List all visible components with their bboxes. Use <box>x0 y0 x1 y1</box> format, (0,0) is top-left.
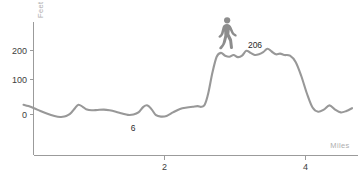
y-axis-title: Feet <box>36 1 45 18</box>
y-tick-label-0: 0 <box>22 110 27 120</box>
elevation-chart-canvas: 200 100 0 2 4 Feet Miles 6 206 <box>0 0 364 174</box>
y-tick-label-100: 100 <box>12 75 27 85</box>
elevation-profile-chart: 200 100 0 2 4 Feet Miles 6 206 <box>0 0 364 174</box>
walking-person-icon <box>219 17 237 49</box>
low-point-label: 6 <box>131 123 136 133</box>
x-tick-label-4: 4 <box>303 162 308 172</box>
x-tick-label-2: 2 <box>162 162 167 172</box>
high-point-label: 206 <box>248 40 262 50</box>
x-axis-title: Miles <box>330 141 350 150</box>
y-tick-label-200: 200 <box>12 46 27 56</box>
elevation-profile-line <box>24 49 353 117</box>
